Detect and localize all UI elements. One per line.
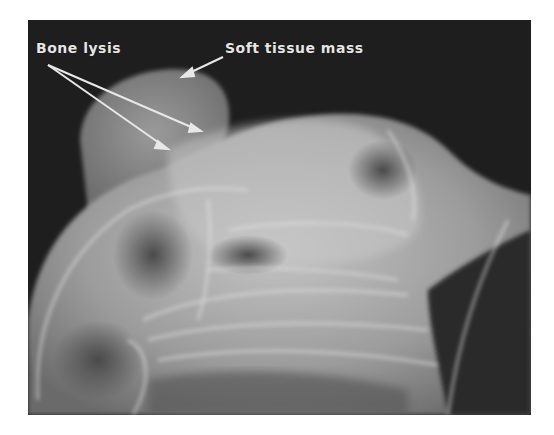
xray-image: Bone lysis Soft tissue mass bbox=[28, 20, 531, 415]
soft-tissue-mass-label: Soft tissue mass bbox=[225, 40, 364, 56]
xray-anatomy bbox=[28, 20, 531, 415]
bone-lysis-label: Bone lysis bbox=[36, 40, 121, 56]
